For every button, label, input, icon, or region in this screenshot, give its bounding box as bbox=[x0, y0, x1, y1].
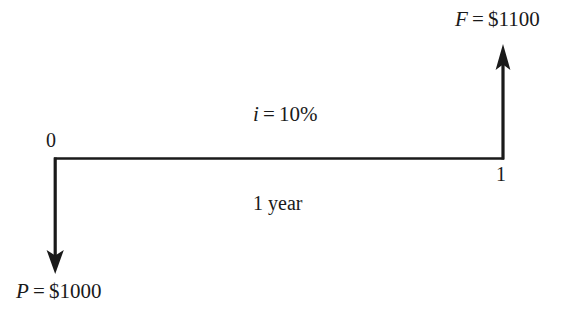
period-span-label: 1 year bbox=[253, 193, 302, 213]
cash-flow-diagram-graphic bbox=[0, 0, 562, 311]
present-value-amount: $1000 bbox=[49, 279, 102, 303]
interest-rate-equals: = bbox=[259, 102, 279, 126]
timeline-tick-label-1: 1 bbox=[496, 164, 506, 184]
present-value-label: P = $1000 bbox=[16, 281, 102, 302]
future-value-amount: $1100 bbox=[488, 7, 540, 31]
present-value-symbol: P bbox=[16, 279, 29, 303]
future-value-label: F = $1100 bbox=[455, 9, 540, 30]
interest-rate-label: i = 10% bbox=[253, 104, 318, 125]
interest-rate-value: 10% bbox=[279, 102, 318, 126]
timeline-tick-label-0: 0 bbox=[46, 130, 56, 150]
present-value-equals: = bbox=[29, 279, 49, 303]
present-value-arrow bbox=[47, 158, 64, 275]
future-value-arrow bbox=[496, 44, 511, 160]
future-value-equals: = bbox=[468, 7, 488, 31]
future-value-symbol: F bbox=[455, 7, 468, 31]
cash-flow-diagram: 0 1 i = 10% 1 year F = $1100 P = $1000 bbox=[0, 0, 562, 311]
